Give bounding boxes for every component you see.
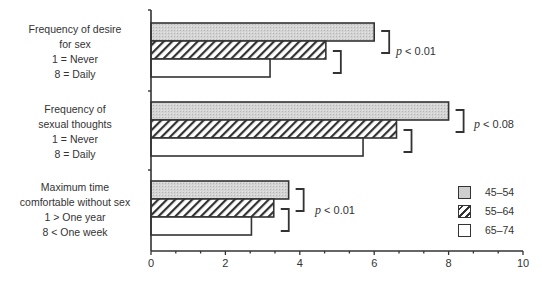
bar-chart	[0, 0, 542, 282]
x-tick-label: 0	[148, 257, 154, 269]
legend-label: 55–64	[485, 205, 514, 217]
x-tick-label: 10	[517, 257, 529, 269]
bar-65-74-group-1	[151, 138, 363, 156]
p-value-max-time: p < 0.01	[315, 203, 355, 218]
p-value-text: < 0.08	[480, 118, 514, 130]
legend-item-55-64: 55–64	[458, 203, 514, 219]
legend-label: 45–54	[485, 186, 514, 198]
p-value-desire: p < 0.01	[396, 44, 436, 59]
p-value-text: < 0.01	[321, 204, 355, 216]
bar-45-54-group-0	[151, 23, 374, 41]
hatched-swatch-icon	[458, 205, 471, 218]
bar-65-74-group-0	[151, 59, 270, 77]
x-tick-label: 6	[371, 257, 377, 269]
x-tick-label: 8	[446, 257, 452, 269]
gray-swatch-icon	[458, 186, 471, 199]
bar-55-64-group-0	[151, 41, 326, 59]
bar-55-64-group-1	[151, 120, 397, 138]
legend-item-65-74: 65–74	[458, 222, 514, 238]
bar-45-54-group-2	[151, 181, 289, 199]
legend-item-45-54: 45–54	[458, 184, 514, 200]
legend-label: 65–74	[485, 224, 514, 236]
p-value-thoughts: p < 0.08	[474, 117, 514, 132]
bar-65-74-group-2	[151, 217, 251, 235]
x-tick-label: 2	[222, 257, 228, 269]
bar-55-64-group-2	[151, 199, 274, 217]
x-tick-label: 4	[297, 257, 303, 269]
p-value-text: < 0.01	[402, 45, 436, 57]
white-swatch-icon	[458, 224, 471, 237]
bar-45-54-group-1	[151, 102, 449, 120]
